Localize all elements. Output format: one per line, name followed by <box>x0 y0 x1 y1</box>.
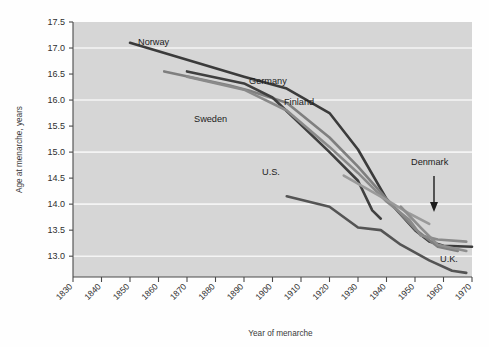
x-tick-label-1830: 1830 <box>54 281 75 302</box>
y-tick-label-17.5: 17.5 <box>47 17 65 27</box>
y-tick-label-14.5: 14.5 <box>47 173 65 183</box>
x-tick-label-1890: 1890 <box>225 281 246 302</box>
x-tick-label-1910: 1910 <box>282 281 303 302</box>
x-tick-label-1960: 1960 <box>424 281 445 302</box>
y-tick-label-15.0: 15.0 <box>47 147 65 157</box>
x-tick-label-1900: 1900 <box>253 281 274 302</box>
series-label-denmark: Denmark <box>411 157 449 167</box>
series-label-uk: U.K. <box>440 254 458 264</box>
y-tick-label-15.5: 15.5 <box>47 121 65 131</box>
series-label-finland: Finland <box>284 97 314 107</box>
y-tick-label-16.5: 16.5 <box>47 69 65 79</box>
series-label-norway: Norway <box>138 37 170 47</box>
y-tick-label-13.5: 13.5 <box>47 225 65 235</box>
x-tick-label-1850: 1850 <box>111 281 132 302</box>
series-label-sweden: Sweden <box>194 114 227 124</box>
x-axis-title: Year of menarche <box>248 329 313 338</box>
x-tick-label-1870: 1870 <box>168 281 189 302</box>
x-tick-label-1860: 1860 <box>139 281 160 302</box>
series-label-germany: Germany <box>249 76 287 86</box>
plot-area <box>73 22 472 277</box>
x-tick-label-1840: 1840 <box>82 281 103 302</box>
menarche-age-line-chart: 17.517.016.516.015.515.014.514.013.513.0… <box>0 0 489 347</box>
x-tick-label-1940: 1940 <box>367 281 388 302</box>
x-tick-label-1970: 1970 <box>453 281 474 302</box>
x-tick-label-1880: 1880 <box>196 281 217 302</box>
y-tick-label-13.0: 13.0 <box>47 251 65 261</box>
y-tick-label-14.0: 14.0 <box>47 199 65 209</box>
x-tick-label-1930: 1930 <box>339 281 360 302</box>
y-tick-label-17.0: 17.0 <box>47 43 65 53</box>
chart-container: 17.517.016.516.015.515.014.514.013.513.0… <box>0 0 489 347</box>
x-tick-label-1950: 1950 <box>396 281 417 302</box>
y-axis-title: Age at menarche, years <box>15 106 24 193</box>
y-tick-label-16.0: 16.0 <box>47 95 65 105</box>
series-label-us: U.S. <box>262 167 280 177</box>
x-tick-label-1920: 1920 <box>310 281 331 302</box>
